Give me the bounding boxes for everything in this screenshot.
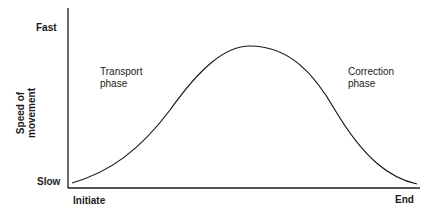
transport-phase-line2: phase xyxy=(100,78,142,90)
y-axis-label-line1: Speed of xyxy=(15,83,26,143)
y-axis-label-line2: movement xyxy=(26,83,37,143)
speed-profile-plot xyxy=(0,0,431,216)
x-tick-end: End xyxy=(395,194,414,206)
correction-phase-line1: Correction xyxy=(348,66,394,78)
transport-phase-line1: Transport xyxy=(100,66,142,78)
y-tick-slow: Slow xyxy=(37,176,60,188)
correction-phase-label: Correction phase xyxy=(348,66,394,90)
correction-phase-line2: phase xyxy=(348,78,394,90)
x-tick-initiate: Initiate xyxy=(73,195,105,207)
y-tick-fast: Fast xyxy=(36,22,57,34)
y-axis-label: Speed of movement xyxy=(15,83,37,143)
transport-phase-label: Transport phase xyxy=(100,66,142,90)
